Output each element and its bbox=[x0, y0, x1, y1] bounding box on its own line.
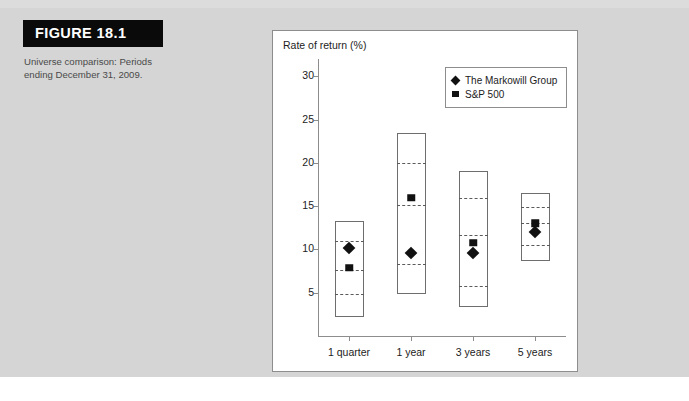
quartile-line bbox=[397, 264, 426, 265]
legend-label-markowill: The Markowill Group bbox=[465, 75, 557, 86]
y-tick-label: 30 bbox=[302, 69, 314, 81]
sp500-data-point bbox=[407, 194, 415, 202]
y-axis-line bbox=[318, 59, 319, 337]
sp500-data-point bbox=[345, 264, 353, 272]
page-top-edge bbox=[0, 0, 689, 8]
y-axis-tick: 30 bbox=[314, 76, 319, 77]
y-tick-label: 10 bbox=[302, 242, 314, 254]
page-bottom-margin bbox=[0, 377, 689, 401]
y-axis-tick: 5 bbox=[314, 293, 319, 294]
figure-number-label: FIGURE 18.1 bbox=[35, 25, 126, 41]
figure-header-bar: FIGURE 18.1 bbox=[23, 20, 163, 47]
figure-page: FIGURE 18.1 Universe comparison: Periods… bbox=[0, 0, 689, 401]
y-tick-mark bbox=[314, 120, 319, 121]
y-tick-label: 5 bbox=[308, 286, 314, 298]
y-tick-mark bbox=[314, 163, 319, 164]
y-axis-tick: 15 bbox=[314, 206, 319, 207]
chart-panel: Rate of return (%) 510152025301 quarter1… bbox=[272, 30, 578, 372]
y-tick-label: 15 bbox=[302, 199, 314, 211]
diamond-marker-icon bbox=[452, 77, 465, 84]
y-tick-mark bbox=[314, 76, 319, 77]
x-tick-mark bbox=[349, 336, 350, 341]
x-tick-label: 3 years bbox=[456, 346, 490, 358]
quartile-line bbox=[397, 163, 426, 164]
quartile-line bbox=[521, 245, 550, 246]
quartile-line bbox=[459, 286, 488, 287]
figure-caption: Universe comparison: Periods ending Dece… bbox=[24, 55, 174, 81]
x-tick-label: 1 year bbox=[396, 346, 425, 358]
universe-box bbox=[397, 133, 426, 294]
y-tick-mark bbox=[314, 293, 319, 294]
x-tick-mark bbox=[411, 336, 412, 341]
x-tick-label: 5 years bbox=[518, 346, 552, 358]
y-tick-label: 25 bbox=[302, 113, 314, 125]
legend-label-sp500: S&P 500 bbox=[465, 89, 504, 100]
y-tick-mark bbox=[314, 206, 319, 207]
chart-legend: The Markowill Group S&P 500 bbox=[445, 67, 567, 108]
x-axis-line bbox=[318, 336, 566, 337]
y-tick-label: 20 bbox=[302, 156, 314, 168]
x-tick-mark bbox=[535, 336, 536, 341]
x-tick-label: 1 quarter bbox=[328, 346, 370, 358]
quartile-line bbox=[459, 198, 488, 199]
y-axis-tick: 25 bbox=[314, 120, 319, 121]
quartile-line bbox=[397, 205, 426, 206]
quartile-line bbox=[521, 207, 550, 208]
y-axis-tick: 20 bbox=[314, 163, 319, 164]
y-tick-mark bbox=[314, 249, 319, 250]
quartile-line bbox=[335, 294, 364, 295]
x-tick-mark bbox=[473, 336, 474, 341]
square-marker-icon bbox=[452, 91, 465, 98]
legend-item-markowill: The Markowill Group bbox=[452, 73, 560, 87]
quartile-line bbox=[459, 235, 488, 236]
sp500-data-point bbox=[531, 220, 539, 228]
sp500-data-point bbox=[469, 239, 477, 247]
y-axis-tick: 10 bbox=[314, 249, 319, 250]
legend-item-sp500: S&P 500 bbox=[452, 87, 560, 101]
